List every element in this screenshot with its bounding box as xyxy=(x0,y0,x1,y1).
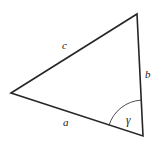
side-label-b: b xyxy=(145,69,151,80)
side-label-c: c xyxy=(62,40,67,51)
figure-background xyxy=(0,0,160,152)
triangle-diagram-canvas xyxy=(0,0,160,152)
side-label-a: a xyxy=(63,117,69,128)
angle-label-gamma: γ xyxy=(126,115,131,127)
triangle-figure: c b a γ xyxy=(0,0,160,152)
